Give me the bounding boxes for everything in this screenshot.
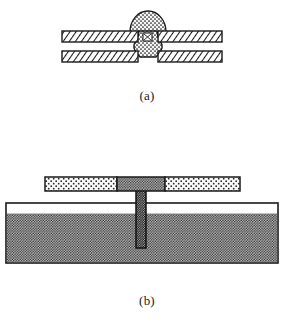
beam-left-segment bbox=[45, 177, 117, 191]
caption-panel-a: (a) bbox=[0, 88, 294, 104]
weld-dome bbox=[130, 11, 166, 32]
panel-b-group bbox=[6, 177, 278, 263]
beam-middle-segment bbox=[117, 177, 165, 191]
vertical-column bbox=[136, 190, 146, 248]
panel-a-group bbox=[62, 11, 222, 62]
diagram-canvas bbox=[0, 0, 294, 324]
figure-diagram bbox=[0, 0, 294, 324]
beam-right-segment bbox=[165, 177, 240, 191]
caption-panel-b: (b) bbox=[0, 293, 294, 309]
weld-nugget-marker bbox=[143, 33, 152, 41]
